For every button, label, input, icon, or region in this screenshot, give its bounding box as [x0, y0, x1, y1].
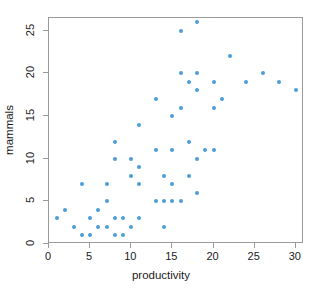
plot-panel: [48, 17, 303, 243]
data-point: [129, 225, 133, 229]
data-point: [129, 174, 133, 178]
data-point: [137, 182, 141, 186]
x-axis-tick: [89, 243, 90, 248]
y-axis-tick-label: 5: [24, 197, 36, 203]
y-axis-tick: [43, 200, 48, 201]
data-point: [294, 88, 298, 92]
data-point: [121, 233, 125, 237]
data-point: [154, 199, 158, 203]
data-point: [162, 225, 166, 229]
data-point: [179, 71, 183, 75]
x-axis-tick-label: 0: [45, 250, 51, 262]
data-point: [195, 71, 199, 75]
y-axis-label: mammals: [3, 105, 15, 155]
x-axis-tick-label: 30: [289, 250, 301, 262]
data-point: [72, 225, 76, 229]
data-point: [203, 148, 207, 152]
data-point: [244, 80, 248, 84]
data-point: [195, 20, 199, 24]
data-point: [63, 208, 67, 212]
data-point: [195, 157, 199, 161]
data-point: [179, 199, 183, 203]
data-point: [170, 148, 174, 152]
y-axis-tick-label: 10: [24, 152, 36, 164]
y-axis-tick-label: 20: [24, 66, 36, 78]
x-axis-tick: [213, 243, 214, 248]
data-point: [96, 225, 100, 229]
data-point: [212, 106, 216, 110]
x-axis-label: productivity: [0, 269, 322, 281]
x-axis-tick: [171, 243, 172, 248]
data-point: [170, 182, 174, 186]
data-point: [113, 157, 117, 161]
data-point: [162, 174, 166, 178]
data-point: [195, 88, 199, 92]
y-axis-tick-label: 15: [24, 109, 36, 121]
data-point: [162, 199, 166, 203]
data-point: [154, 148, 158, 152]
data-point: [113, 216, 117, 220]
data-point: [137, 123, 141, 127]
data-point: [137, 216, 141, 220]
data-point: [88, 216, 92, 220]
data-point: [80, 233, 84, 237]
data-point: [170, 114, 174, 118]
scatter-plot-figure: 0510152025300510152025 productivity mamm…: [0, 0, 322, 296]
x-axis-tick-label: 5: [86, 250, 92, 262]
data-point: [212, 80, 216, 84]
data-point: [277, 80, 281, 84]
data-points-layer: [49, 18, 302, 242]
y-axis-tick: [43, 115, 48, 116]
data-point: [187, 80, 191, 84]
y-axis-tick-label: 0: [24, 240, 36, 246]
data-point: [220, 97, 224, 101]
data-point: [121, 216, 125, 220]
data-point: [96, 208, 100, 212]
data-point: [105, 225, 109, 229]
data-point: [137, 165, 141, 169]
data-point: [113, 233, 117, 237]
y-axis-tick: [43, 158, 48, 159]
data-point: [170, 199, 174, 203]
x-axis-tick-label: 20: [206, 250, 218, 262]
data-point: [179, 106, 183, 110]
data-point: [105, 199, 109, 203]
data-point: [179, 29, 183, 33]
x-axis-tick: [254, 243, 255, 248]
y-axis-tick: [43, 30, 48, 31]
y-axis-tick-label: 25: [24, 24, 36, 36]
data-point: [105, 182, 109, 186]
data-point: [187, 174, 191, 178]
data-point: [212, 148, 216, 152]
y-axis-tick: [43, 243, 48, 244]
x-axis-tick: [130, 243, 131, 248]
x-axis-tick-label: 15: [165, 250, 177, 262]
x-axis-tick-label: 10: [124, 250, 136, 262]
data-point: [195, 191, 199, 195]
x-axis-tick-label: 25: [248, 250, 260, 262]
data-point: [80, 182, 84, 186]
data-point: [88, 233, 92, 237]
data-point: [55, 216, 59, 220]
data-point: [187, 140, 191, 144]
data-point: [129, 157, 133, 161]
data-point: [154, 97, 158, 101]
data-point: [228, 54, 232, 58]
data-point: [113, 140, 117, 144]
y-axis-tick: [43, 72, 48, 73]
x-axis-tick: [48, 243, 49, 248]
x-axis-tick: [295, 243, 296, 248]
data-point: [261, 71, 265, 75]
